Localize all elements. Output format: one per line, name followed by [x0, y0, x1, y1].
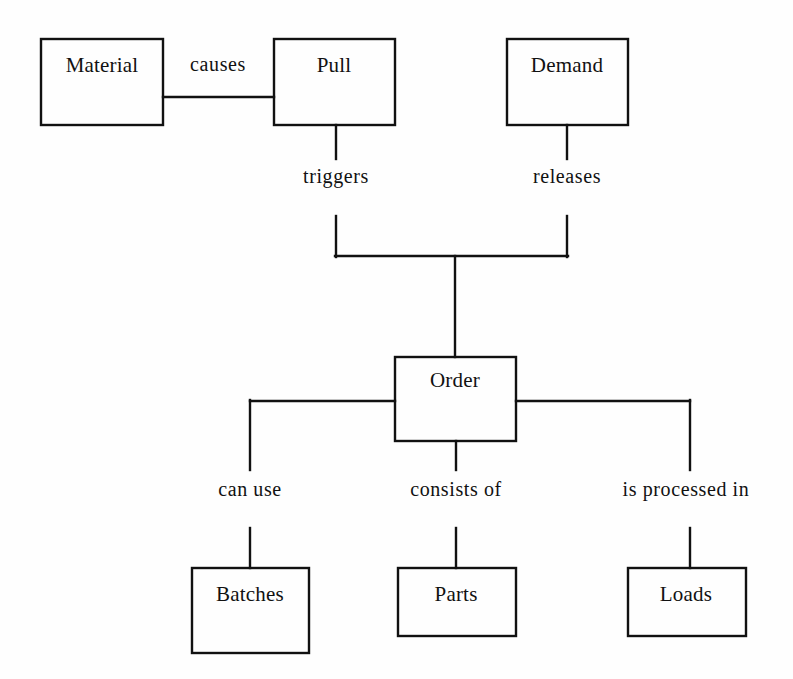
entity-label-pull: Pull — [317, 55, 352, 76]
relationship-label-releases: releases — [533, 166, 601, 186]
relationship-label-can-use: can use — [218, 479, 282, 499]
relationship-label-triggers: triggers — [303, 166, 369, 186]
diagram-canvas: Material Pull Demand Order Batches Parts… — [0, 0, 793, 679]
entity-label-parts: Parts — [435, 584, 478, 605]
entity-label-batches: Batches — [216, 584, 284, 605]
relationship-label-is-processed-in: is processed in — [623, 479, 750, 499]
relationship-label-consists-of: consists of — [410, 479, 502, 499]
entity-boxes — [41, 39, 746, 653]
diagram-connectors-layer — [0, 0, 793, 679]
entity-label-demand: Demand — [531, 55, 603, 76]
entity-label-loads: Loads — [660, 584, 712, 605]
relationship-label-causes: causes — [190, 54, 246, 74]
entity-label-material: Material — [66, 55, 139, 76]
entity-label-order: Order — [430, 370, 480, 391]
